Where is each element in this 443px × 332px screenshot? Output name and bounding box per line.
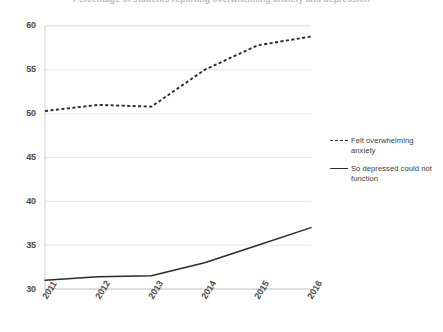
y-tick-label: 60	[2, 21, 36, 30]
line-chart: Percentage of students reporting overwhe…	[0, 0, 443, 332]
y-tick-label: 45	[2, 153, 36, 162]
series-line-felt-overwhelming-anxiety	[45, 37, 311, 112]
legend-item-felt-overwhelming-anxiety: Felt overwhelming anxiety	[330, 136, 438, 155]
y-tick-label: 50	[2, 109, 36, 118]
chart-legend: Felt overwhelming anxiety So depressed c…	[330, 136, 438, 192]
solid-line-swatch-icon	[330, 168, 348, 169]
y-tick-label: 35	[2, 241, 36, 250]
gridlines	[45, 26, 311, 245]
legend-item-label: So depressed could not function	[351, 164, 438, 183]
y-tick-label: 30	[2, 285, 36, 294]
dashed-line-swatch-icon	[330, 140, 348, 141]
series-line-so-depressed-could-not-function	[45, 228, 311, 281]
y-tick-label: 55	[2, 65, 36, 74]
legend-item-so-depressed-could-not-function: So depressed could not function	[330, 164, 438, 183]
data-series-layer	[45, 37, 311, 281]
legend-item-label: Felt overwhelming anxiety	[351, 136, 438, 155]
y-tick-label: 40	[2, 197, 36, 206]
